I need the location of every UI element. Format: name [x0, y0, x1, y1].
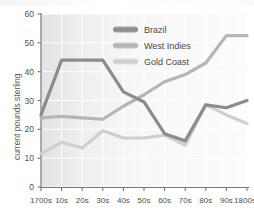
chart-container: 60 50 40 30 20 10 0 current pounds sterl… [0, 0, 254, 212]
x-tick-label-70s: 70s [179, 196, 192, 205]
y-tick-label-40: 40 [25, 67, 35, 77]
y-axis-title: current pounds sterling [12, 73, 22, 160]
x-tick-label-90s: 90s [220, 196, 233, 205]
y-tick-label-30: 30 [25, 96, 35, 106]
y-tick-label-50: 50 [25, 38, 35, 48]
legend-swatch-gold-coast [113, 59, 138, 65]
y-tick-label-10: 10 [25, 153, 35, 163]
legend-label-gold-coast: Gold Coast [144, 57, 190, 67]
legend-label-brazil: Brazil [144, 25, 167, 35]
line-chart-plot: 60 50 40 30 20 10 0 current pounds sterl… [0, 0, 254, 212]
x-tick-label-1700s: 1700s [30, 196, 52, 205]
legend-swatch-brazil [113, 27, 138, 33]
x-tick-label-1800s: 1800s [234, 196, 254, 205]
y-tick-label-20: 20 [25, 124, 35, 134]
y-tick-label-60: 60 [25, 9, 35, 19]
x-tick-label-10s: 10s [55, 196, 68, 205]
x-tick-label-30s: 30s [96, 196, 109, 205]
y-tick-label-0: 0 [29, 182, 34, 192]
x-tick-label-60s: 60s [158, 196, 171, 205]
x-tick-label-20s: 20s [76, 196, 89, 205]
legend-label-west-indies: West Indies [144, 41, 191, 51]
x-tick-label-40s: 40s [117, 196, 130, 205]
x-tick-label-50s: 50s [138, 196, 151, 205]
legend-swatch-west-indies [113, 43, 138, 49]
x-tick-label-80s: 80s [199, 196, 212, 205]
